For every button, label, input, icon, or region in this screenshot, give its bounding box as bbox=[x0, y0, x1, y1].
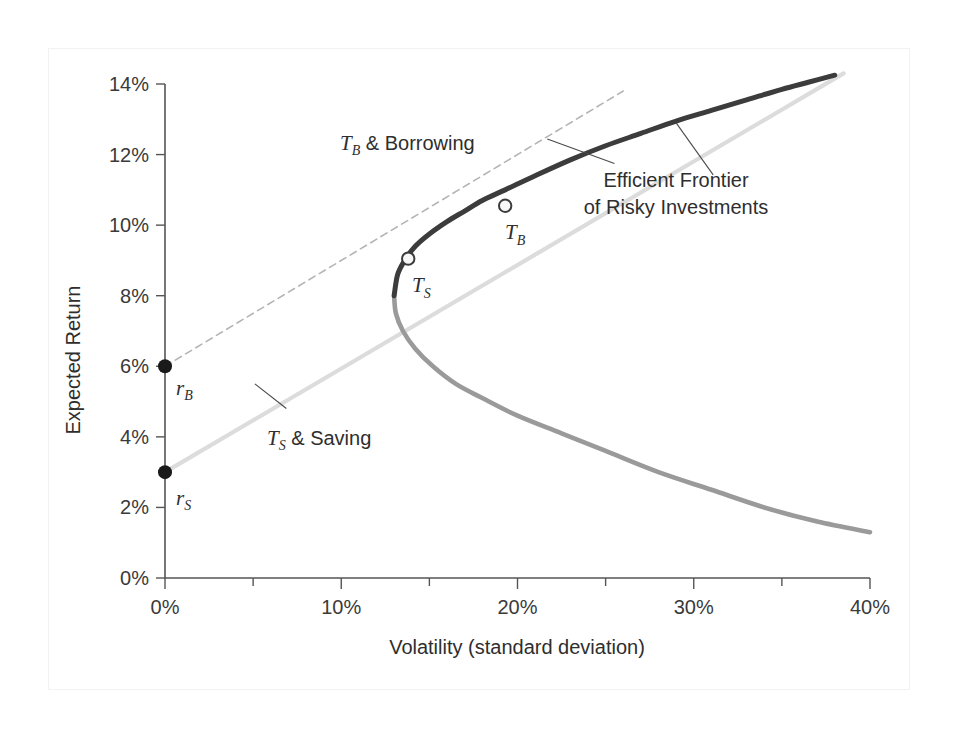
marker-labels: rB rS TS TB bbox=[176, 220, 526, 513]
annotations: TB & Borrowing TS & Saving Efficient Fro… bbox=[267, 131, 768, 453]
series-group bbox=[165, 73, 870, 532]
annotation-saving: TS & Saving bbox=[267, 426, 371, 453]
x-axis-tick-labels: 0%10%20%30%40% bbox=[151, 596, 891, 618]
marker-label-TS: TS bbox=[412, 273, 431, 301]
y-tick-label: 0% bbox=[120, 567, 149, 589]
annotation-efficient-frontier-line2: of Risky Investments bbox=[584, 196, 769, 218]
efficient-frontier-chart: 0%2%4%6%8%10%12%14% 0%10%20%30%40% Expec… bbox=[0, 0, 959, 729]
axis-lines bbox=[165, 84, 870, 578]
annotation-leader-lines bbox=[255, 123, 713, 409]
marker-label-rB: rB bbox=[176, 376, 193, 403]
leader-line-borrowing bbox=[547, 139, 614, 163]
y-axis-title: Expected Return bbox=[62, 286, 84, 435]
x-tick-label: 40% bbox=[850, 596, 890, 618]
y-tick-label: 8% bbox=[120, 285, 149, 307]
y-tick-label: 2% bbox=[120, 496, 149, 518]
marker-rS bbox=[158, 465, 172, 479]
y-axis-ticks bbox=[156, 84, 165, 578]
y-tick-label: 12% bbox=[109, 144, 149, 166]
marker-label-TB: TB bbox=[505, 220, 526, 248]
y-tick-label: 10% bbox=[109, 214, 149, 236]
y-tick-label: 14% bbox=[109, 73, 149, 95]
figure-page: 0%2%4%6%8%10%12%14% 0%10%20%30%40% Expec… bbox=[0, 0, 959, 729]
marker-rB bbox=[158, 359, 172, 373]
y-tick-label: 4% bbox=[120, 426, 149, 448]
y-tick-label: 6% bbox=[120, 355, 149, 377]
leader-line-saving bbox=[255, 384, 286, 409]
x-tick-label: 10% bbox=[321, 596, 361, 618]
annotation-efficient-frontier-line1: Efficient Frontier bbox=[603, 169, 749, 191]
x-axis-title: Volatility (standard deviation) bbox=[389, 636, 645, 658]
x-tick-label: 30% bbox=[674, 596, 714, 618]
annotation-borrowing: TB & Borrowing bbox=[340, 131, 475, 158]
marker-label-rS: rS bbox=[176, 486, 191, 513]
y-axis-tick-labels: 0%2%4%6%8%10%12%14% bbox=[109, 73, 149, 589]
x-tick-label: 0% bbox=[151, 596, 180, 618]
inefficient-frontier-branch bbox=[394, 296, 870, 532]
marker-TS bbox=[402, 252, 414, 264]
x-tick-label: 20% bbox=[497, 596, 537, 618]
saving-capital-allocation-line bbox=[165, 73, 844, 472]
axis-group bbox=[156, 84, 870, 589]
marker-TB bbox=[499, 200, 511, 212]
x-axis-ticks bbox=[165, 578, 870, 589]
